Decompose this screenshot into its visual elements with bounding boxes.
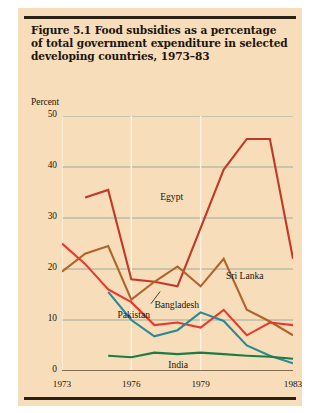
y-tick-label-10: 10 <box>29 313 57 323</box>
y-tick-label-40: 40 <box>29 160 57 170</box>
series-line-bangladesh <box>62 244 293 336</box>
series-label-egypt: Egypt <box>160 191 183 202</box>
top-rule <box>24 16 296 19</box>
y-tick-label-30: 30 <box>29 211 57 221</box>
figure-title-line-2: of total government expenditure in selec… <box>31 37 293 50</box>
x-tick-label-1973: 1973 <box>42 379 82 389</box>
figure-title-line-3: developing countries, 1973–83 <box>31 50 293 63</box>
series-lines <box>62 139 293 363</box>
x-tick-label-1976: 1976 <box>111 379 151 389</box>
plot-area <box>62 116 293 371</box>
horizontal-gridlines <box>62 116 293 371</box>
series-label-sri-lanka: Sri Lanka <box>226 270 264 281</box>
chart-svg <box>62 116 293 371</box>
figure-title-line-1: Figure 5.1 Food subsidies as a percentag… <box>31 24 293 37</box>
series-label-bangladesh: Bangladesh <box>154 299 199 310</box>
y-tick-label-20: 20 <box>29 262 57 272</box>
bottom-rule <box>24 397 296 400</box>
series-label-pakistan: Pakistan <box>117 309 150 320</box>
vertical-gridlines <box>62 116 201 371</box>
x-tick-label-1983: 1983 <box>273 379 313 389</box>
y-tick-label-50: 50 <box>29 109 57 119</box>
figure-title: Figure 5.1 Food subsidies as a percentag… <box>31 24 293 64</box>
x-tick-label-1979: 1979 <box>181 379 221 389</box>
series-label-india: India <box>168 359 188 370</box>
figure-container: Figure 5.1 Food subsidies as a percentag… <box>18 8 302 406</box>
y-tick-label-0: 0 <box>29 364 57 374</box>
y-axis-title: Percent <box>31 97 59 107</box>
